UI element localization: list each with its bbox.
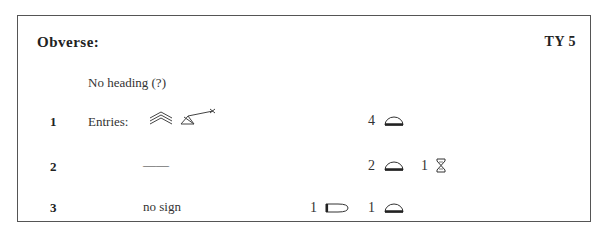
sign-group: 1 bbox=[421, 157, 446, 174]
line-number: 1 bbox=[50, 114, 57, 130]
tablet-reference: TY 5 bbox=[545, 34, 576, 50]
triangle-arrow-sign-icon bbox=[178, 108, 218, 128]
sign-count: 2 bbox=[368, 158, 375, 173]
half-dome-sign-icon bbox=[383, 115, 405, 127]
entries-label: Entries: bbox=[88, 114, 128, 130]
entry-signs bbox=[148, 108, 218, 128]
sign-group: 1 bbox=[310, 199, 350, 216]
section-title: Obverse: bbox=[37, 34, 99, 51]
heading-note: No heading (?) bbox=[88, 75, 166, 91]
sign-count: 1 bbox=[310, 200, 317, 215]
sign-group: 2 bbox=[368, 157, 405, 174]
obverse-panel: Obverse: TY 5 No heading (?) 1 Entries: … bbox=[17, 15, 591, 222]
sign-group: 1 bbox=[368, 199, 405, 216]
line-text: —— bbox=[143, 157, 169, 173]
sign-count: 1 bbox=[368, 200, 375, 215]
triple-chevron-sign-icon bbox=[148, 110, 174, 126]
bullet-sign-icon bbox=[324, 202, 350, 214]
half-dome-sign-icon bbox=[383, 160, 405, 172]
hourglass-sign-icon bbox=[436, 158, 446, 173]
sign-count: 4 bbox=[368, 113, 375, 128]
line-number: 3 bbox=[50, 200, 57, 216]
line-number: 2 bbox=[50, 159, 57, 175]
sign-count: 1 bbox=[421, 158, 428, 173]
half-dome-sign-icon bbox=[383, 202, 405, 214]
sign-group: 4 bbox=[368, 112, 405, 129]
line-text: no sign bbox=[143, 199, 181, 215]
